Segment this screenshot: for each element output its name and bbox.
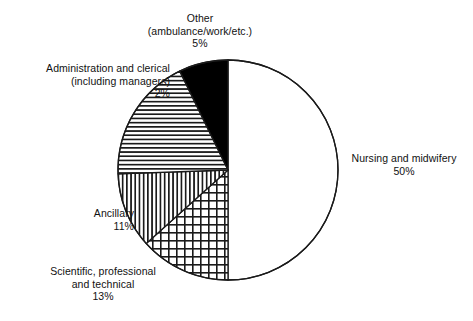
pie-label-other-line2: (ambulance/work/etc.) xyxy=(110,25,290,38)
pie-chart: Other (ambulance/work/etc.) 5% Administr… xyxy=(0,0,473,321)
pie-label-administration: Administration and clerical (including m… xyxy=(6,62,170,100)
pie-label-other-value: 5% xyxy=(110,37,290,50)
pie-label-nursing-line1: Nursing and midwifery xyxy=(336,152,472,165)
pie-label-nursing: Nursing and midwifery 50% xyxy=(336,152,472,177)
pie-label-scientific-line1: Scientific, professional xyxy=(18,265,188,278)
pie-label-administration-value: 2% xyxy=(6,87,170,100)
pie-slice-nursing-and-midwifery xyxy=(228,60,338,280)
pie-label-ancillary: Ancillary 11% xyxy=(6,207,134,232)
pie-label-scientific-value: 13% xyxy=(18,290,188,303)
pie-label-scientific: Scientific, professional and technical 1… xyxy=(18,265,188,303)
pie-label-administration-line2: (including managers) xyxy=(6,75,170,88)
pie-label-other-line1: Other xyxy=(110,12,290,25)
pie-label-administration-line1: Administration and clerical xyxy=(6,62,170,75)
pie-label-nursing-value: 50% xyxy=(336,165,472,178)
pie-label-ancillary-value: 11% xyxy=(6,220,134,233)
pie-label-scientific-line2: and technical xyxy=(18,278,188,291)
pie-label-other: Other (ambulance/work/etc.) 5% xyxy=(110,12,290,50)
pie-label-ancillary-line1: Ancillary xyxy=(6,207,134,220)
